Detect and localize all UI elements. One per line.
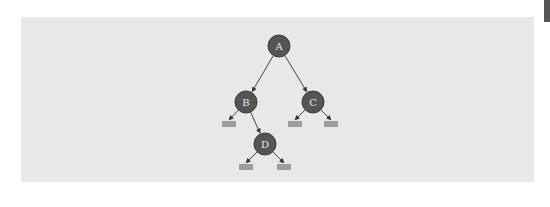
null-ground-icon	[324, 122, 338, 126]
edge-D-null-left	[246, 152, 257, 163]
edge-C-null-right	[321, 110, 331, 120]
node-label: A	[274, 41, 283, 52]
edge-B-D	[251, 112, 261, 133]
tree-node-C: C	[302, 91, 324, 113]
null-markers	[222, 122, 338, 169]
node-label: D	[261, 139, 269, 150]
tree-node-B: B	[235, 91, 257, 113]
edge-D-null-right	[273, 152, 284, 163]
tree-node-A: A	[268, 35, 290, 57]
null-ground-icon	[222, 122, 236, 126]
edge-A-C	[285, 55, 307, 91]
tree-node-D: D	[254, 133, 276, 155]
edge-A-B	[252, 55, 273, 91]
tree-diagram: ABCD	[0, 0, 550, 207]
edge-B-null-left	[229, 110, 238, 120]
null-ground-icon	[277, 165, 291, 169]
null-ground-icon	[288, 122, 302, 126]
null-ground-icon	[239, 165, 253, 169]
tree-nodes: ABCD	[235, 35, 324, 155]
edge-C-null-left	[295, 110, 305, 120]
node-label: B	[242, 97, 249, 108]
node-label: C	[309, 97, 317, 108]
